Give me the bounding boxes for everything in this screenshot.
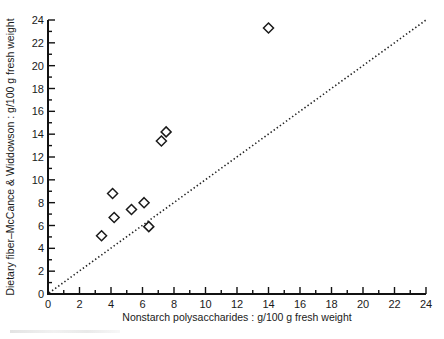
y-tick-label: 6 xyxy=(38,220,44,232)
y-axis-title: Dietary fiber–McCance & Widdowson : g/10… xyxy=(4,18,16,295)
data-point-diamond xyxy=(161,127,171,137)
y-tick-label: 10 xyxy=(32,174,44,186)
x-tick-label: 0 xyxy=(45,298,51,310)
x-tick-label: 2 xyxy=(76,298,82,310)
y-tick-label: 14 xyxy=(32,128,44,140)
y-tick-label: 0 xyxy=(38,288,44,300)
x-tick-label: 6 xyxy=(139,298,145,310)
x-tick-label: 14 xyxy=(262,298,274,310)
x-tick-label: 24 xyxy=(420,298,432,310)
x-tick-label: 16 xyxy=(294,298,306,310)
y-tick-label: 18 xyxy=(32,83,44,95)
x-tick-label: 22 xyxy=(388,298,400,310)
cropped-caption-fragment xyxy=(10,330,120,333)
data-point-diamond xyxy=(109,213,119,223)
y-tick-label: 12 xyxy=(32,151,44,163)
x-tick-label: 18 xyxy=(325,298,337,310)
x-tick-label: 4 xyxy=(108,298,114,310)
y-axis-ticks: 024681012141618202224 xyxy=(32,14,55,300)
x-tick-label: 12 xyxy=(231,298,243,310)
y-tick-label: 24 xyxy=(32,14,44,26)
data-point-diamond xyxy=(156,136,166,146)
data-point-diamond xyxy=(126,205,136,215)
data-point-diamond xyxy=(139,198,149,208)
data-point-diamond xyxy=(97,231,107,241)
identity-line xyxy=(49,20,426,293)
x-axis-ticks: 024681012141618202224 xyxy=(45,287,432,310)
identity-reference-line xyxy=(49,20,426,293)
x-tick-label: 8 xyxy=(171,298,177,310)
y-tick-label: 20 xyxy=(32,60,44,72)
x-tick-label: 10 xyxy=(199,298,211,310)
data-point-diamond xyxy=(264,23,274,33)
scatter-chart: 024681012141618202224 024681012141618202… xyxy=(0,0,444,339)
data-point-diamond xyxy=(108,189,118,199)
y-tick-label: 22 xyxy=(32,37,44,49)
x-axis-title: Nonstarch polysaccharides : g/100 g fres… xyxy=(122,311,351,323)
y-tick-label: 4 xyxy=(38,242,44,254)
y-tick-label: 2 xyxy=(38,265,44,277)
y-tick-label: 8 xyxy=(38,197,44,209)
data-points xyxy=(97,23,274,241)
y-tick-label: 16 xyxy=(32,105,44,117)
x-tick-label: 20 xyxy=(357,298,369,310)
